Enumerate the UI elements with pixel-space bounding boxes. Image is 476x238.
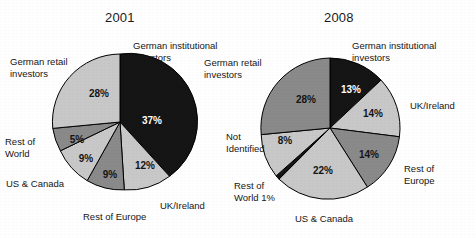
- value-2001-uk-ireland: 12%: [135, 160, 155, 171]
- callout-2008-us-canada: US & Canada: [295, 213, 353, 225]
- callout-2008-german-retail: German retail investors: [204, 57, 262, 80]
- value-2008-us-canada: 22%: [313, 165, 333, 176]
- callout-2008-rest-of-world: Rest of World 1%: [234, 180, 275, 203]
- value-2001-rest-of-europe: 9%: [103, 169, 118, 180]
- callout-2008-rest-of-europe: Rest of Europe: [404, 163, 435, 186]
- value-2001-us-canada: 9%: [79, 153, 94, 164]
- callout-2001-rest-of-europe: Rest of Europe: [83, 211, 146, 223]
- callout-2001-uk-ireland: UK/Ireland: [160, 200, 205, 212]
- callout-2008-uk-ireland: UK/Ireland: [410, 100, 455, 112]
- value-2008-german-retail: 28%: [296, 94, 316, 105]
- value-2001-rest-of-world: 5%: [70, 134, 85, 145]
- callout-2008-not-identified: Not Identified: [226, 131, 265, 154]
- value-2008-uk-ireland: 14%: [363, 108, 383, 119]
- callout-2001-german-retail: German retail investors: [10, 56, 68, 79]
- pie-chart-2001-panel: 2001 37% 12% 9% 9%: [0, 0, 238, 238]
- value-2001-german-retail: 28%: [89, 88, 109, 99]
- pie-chart-2008-panel: 2008 13% 14%: [238, 0, 476, 238]
- value-2008-german-institutional: 13%: [341, 84, 361, 95]
- callout-2001-us-canada: US & Canada: [6, 178, 64, 190]
- callout-2001-rest-of-world: Rest of World: [5, 136, 35, 159]
- two-pie-chart-figure: 2001 37% 12% 9% 9%: [0, 0, 476, 238]
- pie-2008-slices: [261, 58, 400, 199]
- value-2008-rest-of-europe: 14%: [359, 149, 379, 160]
- value-2001-german-institutional: 37%: [142, 115, 162, 126]
- value-2008-not-identified: 8%: [278, 135, 293, 146]
- pie-2001-slices: [52, 53, 197, 190]
- callout-2008-german-institutional: German institutional investors: [352, 40, 436, 63]
